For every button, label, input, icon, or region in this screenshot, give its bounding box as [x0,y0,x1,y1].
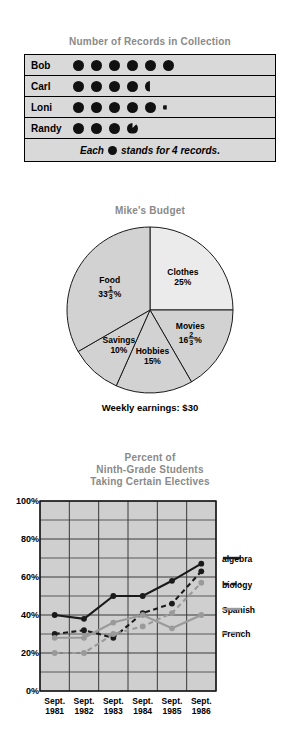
line-chart: Percent of Ninth-Grade Students Taking C… [0,452,300,725]
x-axis-tick-line: Sept. [191,696,212,706]
x-axis-tick-line: 1986 [191,706,212,716]
data-point-French [198,580,204,586]
record-dot-icon [73,81,84,92]
record-dot-icon [145,60,156,71]
pictograph-key-prefix: Each [80,145,104,156]
line-chart-title-line-3: Taking Certain Electives [0,476,300,488]
pictograph-row-label: Bob [31,60,73,71]
data-point-French [140,624,146,630]
pictograph-row-label: Randy [31,123,73,134]
record-dot-icon [109,60,120,71]
pie-slice-value: 10% [103,345,136,355]
pie-slice-label: Savings10% [103,335,136,355]
record-dot-icon [73,102,84,113]
legend-swatch-biology [222,580,242,588]
data-point-biology [198,568,204,574]
pie-slice-label: Movies1623% [176,321,205,346]
x-axis-tick-label: Sept.1982 [74,696,95,716]
record-dot-icon [163,60,174,71]
data-point-algebra [169,578,175,584]
pie-slice-name: Clothes [167,267,198,277]
data-point-algebra [140,593,146,599]
data-point-French [81,650,87,656]
pie-slice-name: Savings [103,335,136,345]
y-axis-tick-label: 0% [26,686,39,696]
pictograph-row-label: Carl [31,81,73,92]
pictograph-row: Bob [25,55,275,76]
pictograph-key-suffix: stands for 4 records. [121,145,220,156]
x-axis-tick-line: 1984 [132,706,153,716]
x-axis-tick-line: 1985 [162,706,183,716]
pie-title: Mike's Budget [0,205,300,217]
pictograph-row-dots [73,60,174,71]
pie-chart: Mike's Budget Clothes25%Movies1623%Hobbi… [0,205,300,413]
legend-swatch-Spanish [222,605,242,613]
y-axis-labels: 0%20%40%60%80%100% [0,495,39,725]
pie-slice-name: Food [98,274,121,284]
data-point-Spanish [81,635,87,641]
record-dot-icon [145,102,156,113]
record-dot-partial-icon [127,123,138,134]
pictograph-row-dots [73,102,174,113]
pie-graphic: Clothes25%Movies1623%Hobbies15%Savings10… [65,225,235,395]
record-dot-icon [109,102,120,113]
data-point-Spanish [140,612,146,618]
legend-swatch-French [222,629,242,637]
data-point-algebra [81,616,87,622]
pictograph-table: BobCarlLoniRandy Each stands for 4 recor… [24,54,276,162]
legend-item-French: French [222,629,250,639]
y-axis-tick-label: 20% [21,648,39,658]
y-axis-tick-label: 100% [16,496,39,506]
line-chart-title: Percent of Ninth-Grade Students Taking C… [0,452,300,488]
pie-slice-value: 3313% [98,284,121,299]
x-axis-tick-line: Sept. [74,696,95,706]
x-axis-tick-line: 1982 [74,706,95,716]
data-point-Spanish [198,612,204,618]
pie-slice-name: Movies [176,321,205,331]
data-point-Spanish [52,635,58,641]
record-dot-icon [127,60,138,71]
y-axis-tick-label: 60% [21,572,39,582]
pie-slice-label: Food3313% [98,274,121,299]
line-chart-plot: 0%20%40%60%80%100% Sept.1981Sept.1982Sep… [0,495,300,725]
record-dot-icon [109,81,120,92]
pie-footer: Weekly earnings: $30 [0,402,300,413]
record-dot-partial-icon [163,102,174,113]
x-axis-tick-line: 1983 [103,706,124,716]
pictograph-row-dots [73,123,138,134]
record-dot-partial-icon [145,81,156,92]
x-axis-tick-label: Sept.1985 [162,696,183,716]
pictograph-row: Randy [25,118,275,139]
line-chart-title-line-1: Percent of [0,452,300,464]
record-dot-icon [91,81,102,92]
pictograph-row-label: Loni [31,102,73,113]
data-point-algebra [52,612,58,618]
line-chart-title-line-2: Ninth-Grade Students [0,464,300,476]
data-point-Spanish [110,620,116,626]
pie-slice-label: Hobbies15% [136,346,170,366]
legend-swatch-algebra [222,554,242,562]
record-dot-icon [91,60,102,71]
pie-slice-value: 25% [167,277,198,287]
record-dot-icon [127,102,138,113]
pictograph-rows: BobCarlLoniRandy [25,55,275,139]
record-dot-icon [91,123,102,134]
pictograph-row-dots [73,81,156,92]
data-point-French [52,650,58,656]
record-dot-icon [109,123,120,134]
pie-svg [65,225,235,395]
record-dot-icon [73,60,84,71]
y-axis-tick-label: 80% [21,534,39,544]
x-axis-tick-line: 1981 [44,706,65,716]
x-axis-tick-line: Sept. [103,696,124,706]
data-point-French [110,631,116,637]
x-axis-tick-line: Sept. [132,696,153,706]
pie-slice-value: 15% [136,356,170,366]
pictograph-key: Each stands for 4 records. [25,139,275,161]
record-dot-icon [127,81,138,92]
data-point-biology [81,627,87,633]
x-axis-tick-label: Sept.1983 [103,696,124,716]
pie-slice-name: Hobbies [136,346,170,356]
data-point-French [169,610,175,616]
pictograph-row: Loni [25,97,275,118]
